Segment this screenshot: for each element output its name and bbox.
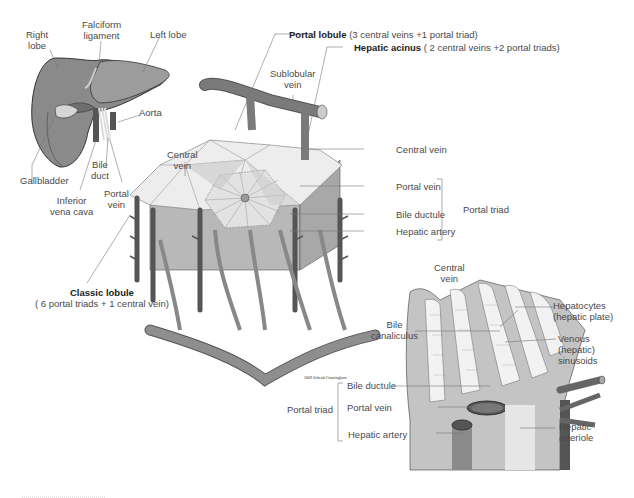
liver-anatomy-illustration [0,0,634,498]
label-aorta: Aorta [139,107,162,118]
label-portal-vein: Portal vein [396,181,441,192]
credit-text: 2009 Schenk/Cunningham [304,372,347,383]
label-bile-ductule: Bile ductule [396,209,445,220]
label-portal-lobule: Portal lobule (3 central veins +1 portal… [289,29,478,40]
label-gallbladder: Gallbladder [20,175,69,186]
label-sublobular-vein: Sublobularvein [270,68,315,90]
label-bile-canaliculus: Bilecanaliculus [371,319,418,341]
label-bile-duct: Bileduct [91,159,109,181]
label-venous-sinusoids: Venous(hepatic)sinusoids [558,333,598,366]
label-hepatic-arteriole: Hepaticarteriole [559,421,593,443]
label-left-lobe: Left lobe [150,29,186,40]
label-portal-triad-top: Portal triad [463,204,509,215]
label-hepatic-acinus: Hepatic acinus ( 2 central veins +2 port… [354,42,560,53]
label-portal-vein-detail: Portal vein [347,402,392,413]
label-central-vein-right: Central vein [396,144,447,155]
label-classic-lobule: Classic lobule( 6 portal triads + 1 cent… [35,287,169,309]
label-portal-vein-liver: Portalvein [104,188,129,210]
label-bile-ductule-detail: Bile ductule [347,380,396,391]
label-hepatic-artery: Hepatic artery [396,226,455,237]
label-right-lobe: Rightlobe [26,29,48,51]
label-hepatocytes: Hepatocytes(hepatic plate) [553,300,613,322]
label-central-vein-detail: Centralvein [434,262,465,284]
label-portal-triad-detail: Portal triad [287,404,333,415]
label-falciform-ligament: Falciformligament [82,19,121,41]
lobule-block [130,84,375,380]
label-central-vein-top: Centralvein [167,149,198,171]
label-hepatic-artery-detail: Hepatic artery [348,429,407,440]
label-inferior-vena-cava: Inferiorvena cava [50,195,93,217]
